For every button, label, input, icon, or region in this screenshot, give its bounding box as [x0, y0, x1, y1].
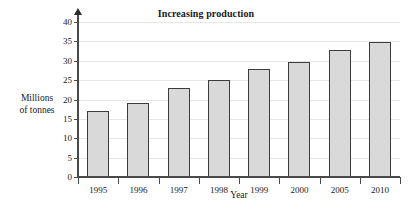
x-axis-title: Year — [78, 190, 400, 200]
bar — [369, 42, 391, 177]
y-axis-tick-label: 15 — [63, 114, 72, 124]
x-axis-tick-mark — [400, 177, 401, 184]
gridline — [78, 41, 400, 42]
x-axis-tick-mark — [118, 177, 119, 184]
x-axis-tick-mark — [320, 177, 321, 184]
bar — [168, 88, 190, 177]
y-axis-tick-label: 25 — [63, 75, 72, 85]
gridline — [78, 119, 400, 120]
x-axis-tick-mark — [199, 177, 200, 184]
x-axis-line — [77, 176, 400, 178]
gridline — [78, 100, 400, 101]
y-axis-tick-label: 10 — [63, 133, 72, 143]
plot-area: 0510152025303540 19951996199719981999200… — [78, 22, 400, 177]
gridline — [78, 80, 400, 81]
gridline — [78, 158, 400, 159]
x-axis-tick-mark — [279, 177, 280, 184]
gridline — [78, 138, 400, 139]
y-axis-tick-label: 35 — [63, 36, 72, 46]
x-axis-tick-mark — [360, 177, 361, 184]
chart-title: Increasing production — [0, 8, 412, 19]
bar-chart-figure: Increasing production Millions of tonnes… — [0, 0, 412, 214]
gridline — [78, 22, 400, 23]
x-axis-tick-mark — [159, 177, 160, 184]
y-axis-title: Millions of tonnes — [6, 92, 68, 116]
y-axis-title-line-1: Millions — [6, 92, 68, 104]
bar — [288, 62, 310, 177]
y-axis-line — [77, 14, 79, 177]
bar — [87, 111, 109, 177]
gridline — [78, 61, 400, 62]
y-axis-arrow-icon — [74, 8, 82, 15]
y-axis-tick-label: 20 — [63, 95, 72, 105]
bar — [208, 80, 230, 177]
bar — [248, 69, 270, 177]
y-axis-tick-label: 0 — [68, 172, 73, 182]
y-axis-tick-label: 5 — [68, 153, 73, 163]
x-axis-tick-mark — [78, 177, 79, 184]
y-axis-title-line-2: of tonnes — [6, 104, 68, 116]
bar — [329, 50, 351, 177]
x-axis-tick-mark — [239, 177, 240, 184]
y-axis-tick-label: 30 — [63, 56, 72, 66]
bar — [127, 103, 149, 177]
y-axis-tick-label: 40 — [63, 17, 72, 27]
